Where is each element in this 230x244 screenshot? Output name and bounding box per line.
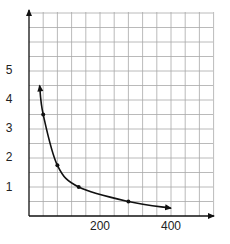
axes	[29, 10, 214, 216]
y-tick-1: 1	[4, 181, 14, 193]
y-tick-5: 5	[4, 64, 14, 76]
y-tick-2: 2	[4, 151, 14, 163]
data-point	[41, 113, 45, 117]
data-point	[77, 185, 81, 189]
y-tick-3: 3	[4, 122, 14, 134]
y-tick-4: 4	[4, 93, 14, 105]
data-point	[126, 200, 130, 204]
curve-line	[40, 86, 171, 209]
x-tick-200: 200	[80, 220, 120, 232]
x-tick-400: 400	[151, 220, 191, 232]
grid-lines	[29, 12, 214, 216]
chart-canvas	[0, 0, 230, 244]
data-point	[55, 163, 59, 167]
